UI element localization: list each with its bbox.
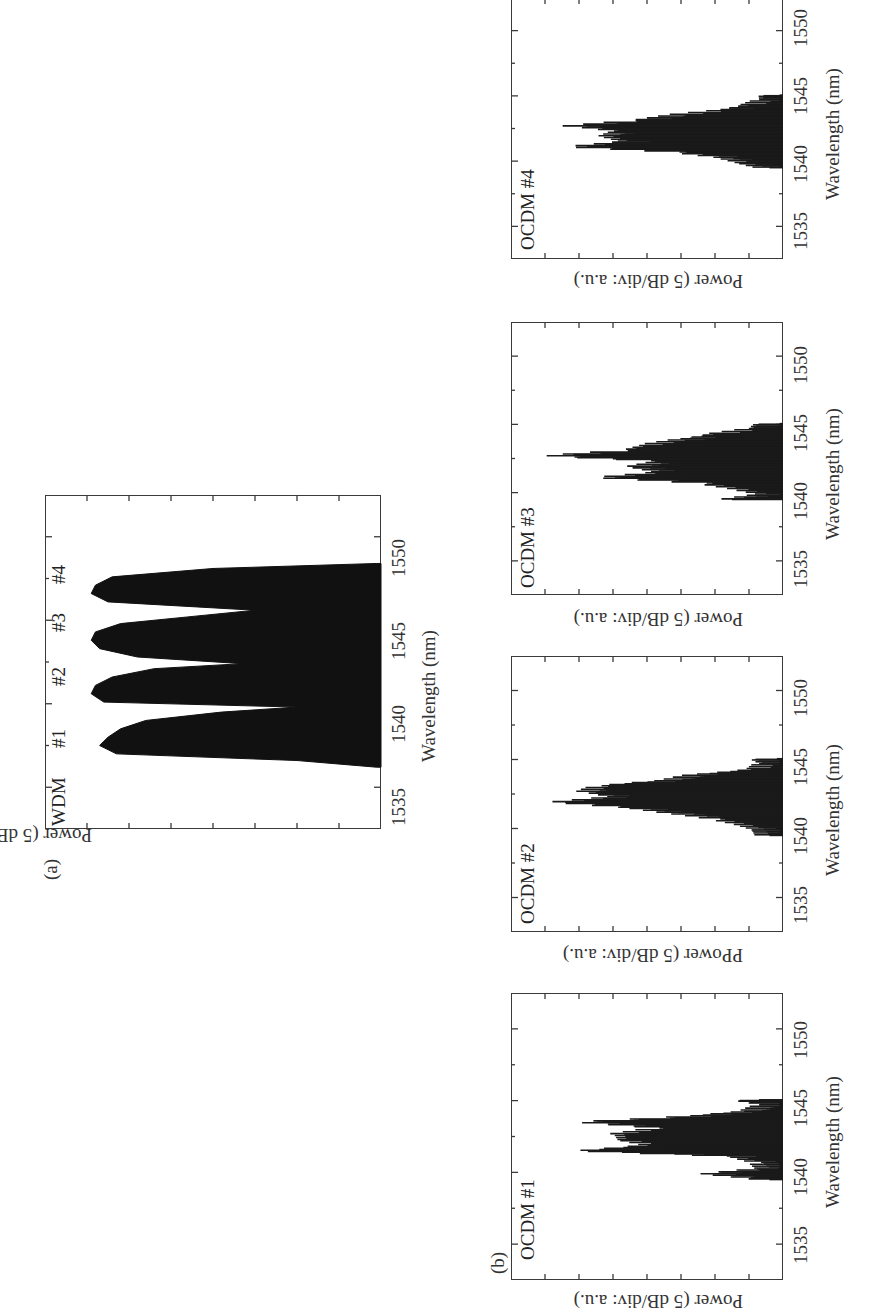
x-tick-1540-ocdm-1: 1540 [790, 1158, 812, 1196]
panel-name-ocdm-1: OCDM #1 [517, 1179, 539, 1260]
y-axis-label-ocdm-1: Power (5 dB/div: a.u.) [574, 1290, 743, 1311]
x-tick-1535-ocdm-1: 1535 [790, 1226, 812, 1264]
plot-area-ocdm-1 [0, 0, 881, 1311]
x-tick-1545-ocdm-1: 1545 [790, 1089, 812, 1127]
x-axis-label-ocdm-1: Wavelength (nm) [822, 1076, 844, 1208]
panel-letter-b: (b) [487, 1252, 509, 1274]
x-tick-1550-ocdm-1: 1550 [790, 1021, 812, 1059]
